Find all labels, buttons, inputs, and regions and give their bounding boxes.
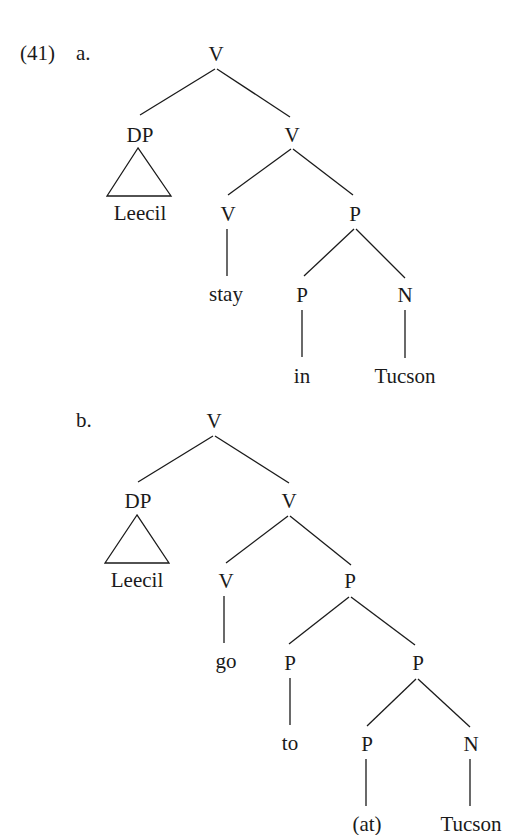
terminal-go: go bbox=[216, 649, 237, 673]
node-n: N bbox=[397, 283, 412, 307]
node-v-head: V bbox=[220, 202, 235, 226]
triangle-icon bbox=[105, 515, 169, 563]
node-dp: DP bbox=[125, 489, 152, 513]
edge bbox=[215, 436, 289, 483]
triangle-icon bbox=[107, 148, 171, 196]
node-pp2: P bbox=[412, 651, 424, 675]
node-root: V bbox=[206, 409, 221, 433]
node-p-head: P bbox=[284, 651, 296, 675]
node-n: N bbox=[463, 732, 478, 756]
tree-a: a. V DP V Leecil V P stay P N in Tucson bbox=[76, 41, 436, 388]
terminal-leecil: Leecil bbox=[111, 568, 164, 592]
node-vbar: V bbox=[284, 123, 299, 147]
node-pp: P bbox=[344, 569, 356, 593]
syntax-tree-figure: (41) a. V DP V Leecil V P stay P N in Tu… bbox=[0, 0, 528, 835]
node-vbar: V bbox=[281, 489, 296, 513]
example-number: (41) bbox=[20, 41, 55, 65]
edge bbox=[226, 516, 288, 563]
node-root: V bbox=[208, 42, 223, 66]
terminal-leecil: Leecil bbox=[114, 201, 167, 225]
edge bbox=[293, 149, 353, 195]
terminal-in: in bbox=[294, 364, 311, 388]
terminal-tucson: Tucson bbox=[374, 364, 436, 388]
edge bbox=[217, 69, 290, 117]
tree-a-label: a. bbox=[76, 41, 91, 65]
terminal-tucson: Tucson bbox=[440, 812, 502, 835]
node-dp: DP bbox=[127, 123, 154, 147]
edge bbox=[138, 436, 213, 482]
edge bbox=[289, 597, 349, 644]
terminal-stay: stay bbox=[209, 282, 243, 306]
node-p2-head: P bbox=[361, 732, 373, 756]
edge bbox=[367, 679, 416, 726]
edge bbox=[351, 597, 415, 645]
terminal-at: (at) bbox=[352, 812, 381, 835]
tree-b-label: b. bbox=[76, 408, 92, 432]
tree-b: b. V DP V Leecil V P go P P to P N (at) … bbox=[76, 408, 502, 835]
node-pp: P bbox=[349, 202, 361, 226]
node-p-head: P bbox=[296, 283, 308, 307]
terminal-to: to bbox=[282, 731, 298, 755]
edge bbox=[356, 229, 405, 278]
edge bbox=[304, 229, 354, 276]
edge bbox=[140, 69, 215, 115]
node-v-head: V bbox=[218, 569, 233, 593]
edge bbox=[228, 149, 291, 195]
edge bbox=[418, 679, 470, 727]
edge bbox=[290, 516, 351, 565]
